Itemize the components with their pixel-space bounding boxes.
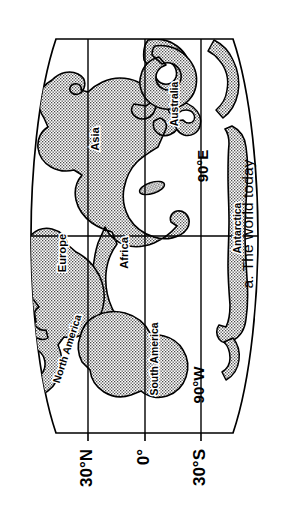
continent-label-south-america: South America bbox=[149, 322, 160, 395]
continent-label-australia: Australia bbox=[169, 82, 180, 127]
axis-label-30n: 30°N bbox=[77, 449, 96, 487]
meridian-label-90w: 90°W bbox=[190, 366, 207, 404]
latitude-axis-labels: 30°N 0° 30°S bbox=[77, 449, 209, 487]
continent-label-asia: Asia bbox=[89, 126, 101, 150]
figure-caption: a. The world today bbox=[239, 124, 257, 324]
meridian-label-90e: 90°E bbox=[194, 150, 211, 183]
continent-label-europe: Europe bbox=[56, 234, 68, 273]
figure-world-map-today: 30°N 0° 30°S 90°W 90°E Asia Europe Afric… bbox=[0, 0, 296, 521]
continent-label-africa: Africa bbox=[118, 236, 130, 268]
axis-label-30s: 30°S bbox=[190, 449, 209, 486]
latitude-axis-ticks bbox=[88, 433, 201, 441]
axis-label-0: 0° bbox=[134, 449, 153, 465]
